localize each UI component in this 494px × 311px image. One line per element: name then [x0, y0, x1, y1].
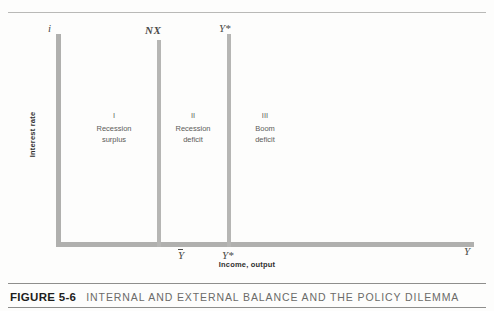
region-3-line2: deficit	[234, 134, 296, 145]
caption-bottom-divider	[8, 307, 486, 308]
ystar-schedule-label: Y*	[219, 22, 231, 34]
figure-number: FIGURE 5-6	[10, 291, 76, 303]
figure-container: i NX Y* Y Y* Y Interest rate Income, out…	[0, 0, 494, 311]
region-2-line2: deficit	[162, 134, 224, 145]
region-annotation-1: I Recession surplus	[78, 110, 150, 145]
region-3-numeral: III	[234, 110, 296, 121]
region-annotation-2: II Recession deficit	[162, 110, 224, 145]
caption-top-divider	[8, 283, 486, 284]
interest-rate-axis	[56, 34, 61, 247]
overbar-mark	[178, 249, 183, 250]
region-2-numeral: II	[162, 110, 224, 121]
figure-caption: FIGURE 5-6 INTERNAL AND EXTERNAL BALANCE…	[10, 288, 484, 305]
x-axis-title: Income, output	[0, 260, 494, 269]
income-output-axis	[56, 242, 474, 247]
region-1-line1: Recession	[78, 123, 150, 134]
region-1-numeral: I	[78, 110, 150, 121]
y-axis-end-label: i	[48, 22, 51, 34]
nx-schedule-line	[157, 40, 161, 247]
region-annotation-3: III Boom deficit	[234, 110, 296, 145]
region-1-line2: surplus	[78, 134, 150, 145]
y-axis-title: Interest rate	[28, 90, 37, 180]
nx-schedule-label: NX	[145, 24, 161, 36]
region-3-line1: Boom	[234, 123, 296, 134]
region-2-line1: Recession	[162, 123, 224, 134]
figure-title: INTERNAL AND EXTERNAL BALANCE AND THE PO…	[86, 291, 459, 303]
x-axis-end-label: Y	[464, 245, 470, 257]
ystar-schedule-line	[227, 34, 231, 247]
plot-area: i NX Y* Y Y* Y Interest rate Income, out…	[0, 0, 494, 275]
